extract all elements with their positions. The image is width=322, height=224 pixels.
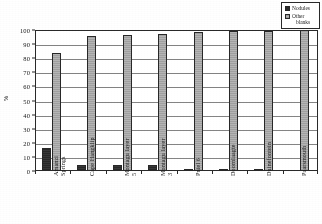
y-axis-tick-label: 10 [23,153,30,160]
y-axis-tick-label: 90 [23,41,30,48]
y-axis-tick-label: 100 [20,27,30,34]
x-axis-tick-label: Doornlaagte [230,144,237,176]
x-axis-tick-label: Duinefontein [266,142,273,176]
y-axis-tick-label: 60 [23,83,30,90]
x-axis-tick-mark [70,171,71,174]
y-axis-title: % [2,96,9,101]
bar-group [35,30,70,171]
bar-nodules [42,148,51,171]
x-axis-tick-mark [283,171,284,174]
x-axis-tick-mark [317,171,318,174]
bar-series-container [35,30,318,171]
x-axis-tick-label: AmanziSprings [53,156,66,176]
y-axis-tick-label: 50 [23,97,30,104]
legend-swatch-icon [285,14,290,19]
y-axis-tick-label: 0 [27,168,30,175]
x-axis-tick-mark [212,171,213,174]
x-axis-tick-mark [35,171,36,174]
y-axis-tick-label: 30 [23,125,30,132]
x-axis-tick-label: Montagu layer5 [124,138,137,176]
bar-group [177,30,212,171]
bar-other-blanks [194,32,203,171]
bar-chart-figure: 1009080706050403020100 % AmanziSpringsCa… [0,0,322,224]
bar-other-blanks [52,53,61,171]
legend-swatch-icon [285,6,290,11]
y-axis-tick-label: 80 [23,55,30,62]
legend-item: Nodules [285,5,316,11]
y-axis-tick-label: 70 [23,69,30,76]
x-axis: AmanziSpringsCape HangklipMontagu layer5… [35,171,318,224]
chart-legend: NodulesOtherblanks [281,2,320,29]
y-axis-tick-label: 40 [23,111,30,118]
x-axis-tick-mark [141,171,142,174]
x-axis-tick-label: Pniel 6 [195,158,202,176]
legend-label: Nodules [292,5,310,11]
x-axis-tick-mark [247,171,248,174]
x-axis-tick-label: Montagu layer3 [160,138,173,176]
x-axis-tick-mark [177,171,178,174]
y-axis-tick-label: 20 [23,139,30,146]
x-axis-tick-label: Paarsmouth [301,146,308,176]
legend-label: Otherblanks [292,13,310,25]
x-axis-tick-mark [106,171,107,174]
legend-item: Otherblanks [285,13,316,25]
x-axis-tick-label: Cape Hangklip [89,137,96,176]
